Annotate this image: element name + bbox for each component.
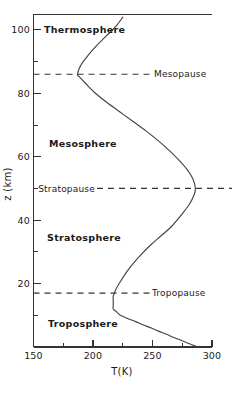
pause-label-mesopause: Mesopause xyxy=(154,69,207,79)
y-axis-ticks xyxy=(34,30,42,315)
layer-label-stratosphere: Stratosphere xyxy=(47,232,121,243)
y-tick-label-100: 100 xyxy=(11,24,30,35)
y-axis-title: z (km) xyxy=(2,167,13,201)
atmospheric-layer-labels: Thermosphere Mesosphere Stratosphere Tro… xyxy=(44,24,125,329)
x-axis-ticks xyxy=(34,340,213,347)
x-tick-label-300: 300 xyxy=(203,350,222,361)
atmospheric-temperature-profile-figure: 150 200 250 300 20 40 60 80 100 T(K) z (… xyxy=(0,0,236,397)
y-tick-label-40: 40 xyxy=(18,215,31,226)
y-axis-tick-labels: 20 40 60 80 100 xyxy=(11,24,30,289)
atmospheric-pause-labels: Mesopause Stratopause Tropopause xyxy=(38,69,207,298)
temperature-profile-chart: 150 200 250 300 20 40 60 80 100 T(K) z (… xyxy=(0,0,236,397)
x-axis-title: T(K) xyxy=(110,366,133,377)
layer-label-thermosphere: Thermosphere xyxy=(44,24,125,35)
pause-label-stratopause: Stratopause xyxy=(38,184,95,194)
layer-label-mesosphere: Mesosphere xyxy=(49,138,117,149)
y-tick-label-60: 60 xyxy=(18,151,31,162)
x-axis-tick-labels: 150 200 250 300 xyxy=(24,350,221,361)
x-tick-label-250: 250 xyxy=(143,350,162,361)
y-tick-label-80: 80 xyxy=(18,88,31,99)
y-tick-label-20: 20 xyxy=(18,278,31,289)
x-tick-label-150: 150 xyxy=(24,350,43,361)
pause-label-tropopause: Tropopause xyxy=(151,288,206,298)
x-tick-label-200: 200 xyxy=(84,350,103,361)
layer-label-troposphere: Troposphere xyxy=(48,318,118,329)
